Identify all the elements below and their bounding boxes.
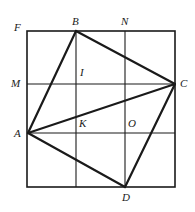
point-label-D: D xyxy=(122,192,130,203)
point-label-I: I xyxy=(80,67,84,78)
point-label-B: B xyxy=(72,16,79,27)
point-label-N: N xyxy=(121,16,128,27)
point-label-A: A xyxy=(14,128,21,139)
point-label-F: F xyxy=(14,22,21,33)
geometry-figure: F B N M C I A K O D xyxy=(0,0,195,212)
point-label-C: C xyxy=(180,78,187,89)
geometry-canvas xyxy=(0,0,195,212)
point-label-K: K xyxy=(79,118,86,129)
point-label-M: M xyxy=(11,78,20,89)
segment-CD xyxy=(125,84,175,187)
diagonal-AC xyxy=(28,84,175,133)
segment-AB xyxy=(28,31,76,133)
point-label-O: O xyxy=(128,118,136,129)
